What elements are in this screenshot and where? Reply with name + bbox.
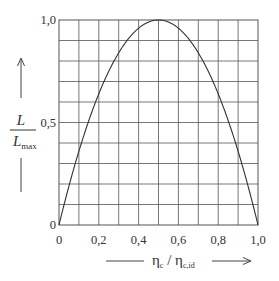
x-tick-label: 0,4 bbox=[131, 233, 147, 247]
grid bbox=[59, 20, 258, 225]
y-tick-label: 1,0 bbox=[40, 13, 56, 27]
y-tick-label: 0,5 bbox=[40, 116, 56, 130]
y-label-denominator: Lmax bbox=[12, 133, 37, 151]
x-tick-label: 0,2 bbox=[91, 233, 107, 247]
x-tick-label: 0,8 bbox=[210, 233, 226, 247]
x-label-text: ηc / ηc,id bbox=[152, 252, 195, 270]
y-tick-labels: 00,51,0 bbox=[40, 13, 56, 232]
y-tick-label: 0 bbox=[50, 218, 56, 232]
y-label-numerator: L bbox=[16, 112, 25, 128]
chart: 00,20,40,60,81,0 00,51,0 L Lmax ηc / ηc,… bbox=[0, 0, 279, 281]
y-axis-label: L Lmax bbox=[10, 58, 37, 192]
x-tick-labels: 00,20,40,60,81,0 bbox=[56, 233, 266, 247]
x-tick-label: 0 bbox=[56, 233, 62, 247]
x-tick-label: 1,0 bbox=[250, 233, 266, 247]
x-tick-label: 0,6 bbox=[171, 233, 187, 247]
x-axis-label: ηc / ηc,id bbox=[106, 252, 251, 270]
